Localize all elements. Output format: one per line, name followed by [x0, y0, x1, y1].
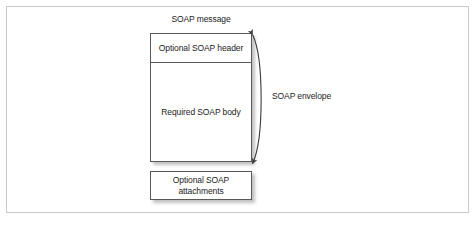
soap-attachments-label: Optional SOAP attachments	[173, 175, 229, 197]
soap-body-label: Required SOAP body	[161, 107, 240, 118]
soap-envelope-group: Optional SOAP header Required SOAP body	[150, 33, 252, 162]
soap-message-diagram: SOAP message Optional SOAP header Requir…	[0, 0, 476, 226]
soap-header-box: Optional SOAP header	[151, 34, 251, 63]
soap-attachments-label-line1: Optional SOAP	[173, 175, 229, 185]
soap-header-label: Optional SOAP header	[159, 43, 243, 54]
diagram-title: SOAP message	[150, 14, 252, 24]
soap-body-box: Required SOAP body	[151, 63, 251, 161]
soap-envelope-label: SOAP envelope	[272, 91, 331, 101]
soap-attachments-box: Optional SOAP attachments	[150, 171, 252, 200]
soap-attachments-label-line2: attachments	[178, 186, 223, 196]
soap-envelope-brace-arrow	[244, 28, 274, 170]
